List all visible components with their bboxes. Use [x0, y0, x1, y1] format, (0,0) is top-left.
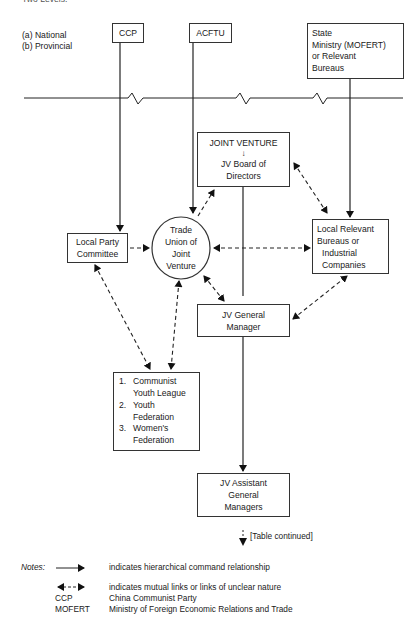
local-party-line: Local Party [76, 236, 119, 248]
state-ministry-line: State [312, 28, 403, 40]
org-number: 2. [119, 400, 133, 424]
note-solid-arrow: indicates hierarchical command relations… [109, 562, 270, 572]
jv-board-line: Directors [226, 170, 260, 182]
level-divider [24, 93, 403, 104]
notes-label: Notes: [21, 562, 45, 572]
note-key-ccp: CCP [55, 593, 73, 604]
agm-line: JV Assistant [220, 477, 267, 489]
gm-line: Manager [227, 321, 261, 333]
jv-board-line: JV Board of [221, 158, 266, 170]
note-dashed-arrow: indicates mutual links or links of uncle… [109, 582, 281, 593]
gm-line: JV General [222, 309, 265, 321]
jv-title: JOINT VENTURE [209, 137, 277, 149]
local-relevant-box: Local Relevant Bureaus or Industrial Com… [312, 219, 389, 274]
local-relevant-line: Industrial [317, 247, 388, 259]
jv-board-box: JOINT VENTURE ↓ JV Board of Directors [197, 132, 290, 187]
org-item: 1. CommunistYouth League [119, 376, 199, 400]
trade-union-line: Joint [152, 248, 210, 260]
state-ministry-line: Ministry (MOFERT) [312, 40, 403, 52]
ccp-label: CCP [119, 27, 137, 39]
org-number: 1. [119, 376, 133, 400]
org-name: Women'sFederation [133, 423, 174, 447]
local-relevant-line: Bureaus or [317, 235, 388, 247]
state-ministry-line: Bureaus [312, 63, 403, 75]
org-number: 3. [119, 423, 133, 447]
local-party-box: Local Party Committee [67, 233, 128, 263]
state-ministry-line: or Relevant [312, 51, 403, 63]
general-manager-box: JV General Manager [197, 304, 290, 337]
agm-line: Managers [224, 501, 262, 513]
trade-union-node: Trade Union of Joint Venture [152, 224, 210, 272]
note-key-mofert: MOFERT [55, 604, 90, 615]
note-ccp: China Communist Party [109, 593, 197, 604]
agm-line: General [228, 489, 259, 501]
down-arrow-icon: ↓ [242, 149, 246, 158]
local-party-line: Committee [77, 248, 119, 260]
acftu-box: ACFTU [189, 23, 232, 43]
trade-union-line: Venture [152, 260, 210, 272]
notes-list: indicates mutual links or links of uncle… [55, 582, 415, 617]
org-item: 3. Women'sFederation [119, 423, 199, 447]
org-name: YouthFederation [133, 400, 174, 424]
local-relevant-line: Local Relevant [317, 223, 388, 235]
trade-union-line: Trade [152, 224, 210, 236]
org-name: CommunistYouth League [133, 376, 186, 400]
table-continued-label: [Table continued] [250, 531, 313, 541]
assistant-gm-box: JV Assistant General Managers [197, 473, 290, 517]
note-mofert: Ministry of Foreign Economic Relations a… [109, 604, 293, 615]
acftu-label: ACFTU [196, 27, 225, 39]
org-item: 2. YouthFederation [119, 400, 199, 424]
state-ministry-box: State Ministry (MOFERT) or Relevant Bure… [307, 23, 404, 79]
mass-organizations-box: 1. CommunistYouth League 2. YouthFederat… [113, 372, 200, 451]
ccp-box: CCP [112, 23, 144, 43]
trade-union-line: Union of [152, 236, 210, 248]
local-relevant-line: Companies [317, 259, 388, 271]
